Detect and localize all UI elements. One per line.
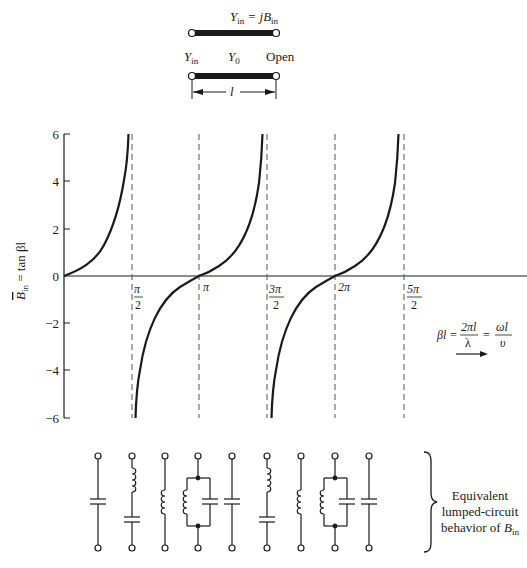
svg-text:3π: 3π [268,282,282,296]
svg-text:behavior of Bin: behavior of Bin [441,520,519,537]
equivalent-circuits [90,452,437,552]
svg-text:=: = [483,328,490,342]
svg-text:2: 2 [411,298,417,312]
curve-branch-1 [64,134,129,276]
length-label: l [230,84,234,99]
svg-text:0: 0 [53,269,60,284]
svg-text:2: 2 [273,298,279,312]
svg-text:−2: −2 [45,316,59,331]
svg-text:υ: υ [500,336,506,350]
yin-label: Yin [184,49,199,66]
transmission-line-diagram: Yin = jBin Yin Y0 Open l [184,9,295,99]
svg-text:βl =: βl = [436,328,457,342]
tick-3pi-over-2: 3π 2 [268,282,284,312]
y0-label: Y0 [228,49,240,66]
circuit-capacitor [224,453,240,551]
length-dimension: l [192,80,276,99]
svg-text:2: 2 [53,222,60,237]
y-tick-labels: 6 4 2 0 −2 −4 −6 [45,127,59,426]
arrow-left-icon [193,89,203,95]
svg-text:λ: λ [465,336,471,350]
svg-text:−6: −6 [45,411,59,426]
terminal-icon [189,30,196,37]
circuit-parallel-lc [183,453,218,551]
chart: 6 4 2 0 −2 −4 −6 Bin = tan βl π 2 [13,127,527,426]
tick-5pi-over-2: 5π 2 [407,282,422,312]
terminal-icon [189,73,196,80]
x-axis-formula: βl = 2πl λ = ωl υ [436,320,512,357]
circuit-series-lc [259,453,275,551]
tick-pi-over-2: π 2 [134,282,143,312]
input-admittance-label: Yin = jBin [230,9,279,26]
open-label: Open [266,49,295,64]
brace-icon [424,452,437,552]
svg-text:−4: −4 [45,363,59,378]
tick-pi: π [203,280,210,294]
terminal-icon [273,73,280,80]
svg-text:lumped-circuit: lumped-circuit [442,504,519,519]
arrow-right-icon [265,89,275,95]
svg-text:6: 6 [53,127,60,142]
circuit-series-lc [124,453,140,551]
x-tick-labels: π 2 π 3π 2 2π 5π 2 [134,280,422,312]
circuit-inductor [161,453,168,551]
terminal-icon [273,30,280,37]
tick-2pi: 2π [338,280,351,294]
svg-text:2πl: 2πl [461,320,477,334]
circuit-inductor [297,453,304,551]
figure: Yin = jBin Yin Y0 Open l [0,0,527,568]
circuit-capacitor [361,453,377,551]
svg-text:π: π [134,282,141,296]
circuit-caption: Equivalent lumped-circuit behavior of Bi… [441,488,519,537]
svg-text:Equivalent: Equivalent [452,488,509,503]
svg-text:ωl: ωl [496,320,508,334]
svg-text:2: 2 [135,298,141,312]
circuit-parallel-lc [320,453,355,551]
svg-text:5π: 5π [407,282,420,296]
circuit-capacitor [90,453,106,551]
y-axis-label: Bin = tan βl [13,241,30,300]
svg-text:4: 4 [53,174,60,189]
